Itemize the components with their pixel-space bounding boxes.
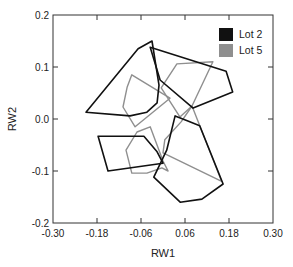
x-axis-title: RW1: [151, 247, 175, 259]
polygon-layer: [86, 41, 233, 202]
hull-lot-5-2: [161, 62, 213, 117]
legend: Lot 2Lot 5: [219, 28, 263, 57]
x-tick-label: 0.06: [175, 228, 195, 239]
hull-lot-2-4: [154, 116, 223, 202]
x-tick-label: -0.06: [130, 228, 153, 239]
legend-label: Lot 5: [239, 44, 263, 56]
x-tick-label: 0.30: [263, 228, 283, 239]
x-tick-label: -0.18: [86, 228, 109, 239]
legend-swatch-lot-2: [219, 28, 233, 41]
y-tick-label: 0.2: [35, 10, 49, 21]
hull-chart: -0.30-0.18-0.060.060.180.30 -0.2-0.10.00…: [0, 0, 293, 267]
y-tick-label: 0.1: [35, 62, 49, 73]
hull-lot-2-1: [86, 41, 159, 116]
y-tick-label: -0.1: [32, 166, 50, 177]
hull-lot-5-4: [163, 106, 222, 181]
x-tick-label: 0.18: [219, 228, 239, 239]
y-tick-label: -0.2: [32, 218, 50, 229]
x-tick-label: -0.30: [42, 228, 65, 239]
legend-label: Lot 2: [239, 28, 263, 40]
y-axis-title: RW2: [6, 107, 18, 131]
y-tick-label: 0.0: [35, 114, 49, 125]
legend-swatch-lot-5: [219, 44, 233, 57]
